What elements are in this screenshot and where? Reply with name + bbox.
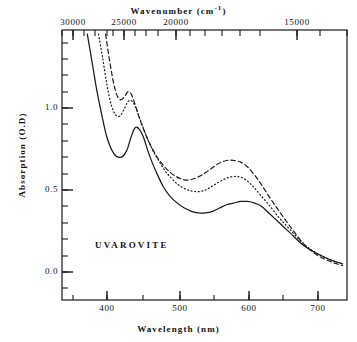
- figure-uvarovite-absorption-spectrum: Wavenumber (cm-1) Wavelength (nm) Absorp…: [0, 0, 357, 342]
- bottom-tick-label-1: 500: [150, 303, 210, 313]
- y-tick-label-2: 0.0: [30, 266, 58, 276]
- dotted-curve: [99, 34, 343, 264]
- plot-area: [0, 0, 357, 342]
- bottom-tick-label-0: 400: [77, 303, 137, 313]
- sample-name-label: UVAROVITE: [95, 240, 169, 250]
- top-tick-label-3: 15000: [267, 17, 327, 27]
- spectrum-curves: [87, 34, 342, 265]
- y-tick-label-0: 1.0: [30, 102, 58, 112]
- top-tick-label-1: 25000: [94, 17, 154, 27]
- top-tick-label-2: 20000: [146, 17, 206, 27]
- solid-curve: [87, 34, 342, 264]
- y-tick-label-1: 0.5: [30, 184, 58, 194]
- dashed-curve: [106, 34, 343, 265]
- bottom-tick-label-2: 600: [219, 303, 279, 313]
- bottom-tick-label-3: 700: [288, 303, 348, 313]
